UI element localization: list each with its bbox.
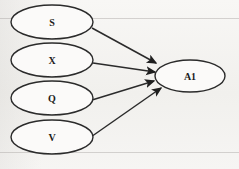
node-label-q: Q [48,93,56,104]
edge-v-to-a1 [88,88,161,139]
edges-layer [88,28,161,139]
node-label-x: X [48,55,55,66]
node-label-v: V [48,132,55,143]
edge-s-to-a1 [92,28,156,63]
edge-q-to-a1 [92,81,154,100]
diagram-graphics [0,0,239,169]
edge-x-to-a1 [93,63,155,72]
node-label-s: S [49,17,55,28]
node-label-a1: A1 [184,71,196,82]
diagram-canvas: SXQVA1 [0,0,239,169]
